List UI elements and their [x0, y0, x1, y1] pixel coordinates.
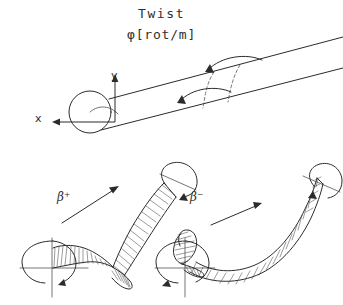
beta-plus-tip-rotation-arrowhead	[179, 193, 188, 201]
beta-plus-tip-rotation-arc	[161, 162, 197, 197]
cylinder-group	[52, 37, 343, 133]
beta-plus-base-rotation-arc	[22, 241, 53, 283]
beta-minus-group	[155, 163, 342, 297]
beta-plus-near-rulings	[54, 246, 107, 267]
x-axis-arrowhead	[52, 119, 60, 126]
diagram-canvas	[0, 0, 343, 305]
cylinder-lower-edge	[101, 68, 343, 130]
cylinder-section-dashed-right	[228, 65, 240, 102]
beta-plus-direction-arrow-shaft	[62, 189, 115, 223]
twist-arrow-upper-arc	[208, 56, 262, 70]
beta-plus-ribbon-near-bottom-edge	[53, 262, 114, 268]
x-axis-line	[56, 112, 115, 122]
beta-minus-near-lobe-outer	[179, 230, 197, 264]
beta-minus-ribbon-upper-edge	[196, 178, 317, 271]
twist-diagram-figure: Twist φ[rot/m] y x β⁺ β⁻	[0, 0, 343, 305]
beta-minus-direction-arrowhead	[253, 202, 262, 209]
y-axis-arrowhead	[112, 74, 119, 82]
beta-plus-pinch-lobe	[112, 268, 132, 289]
beta-plus-group	[20, 162, 197, 297]
beta-plus-far-rulings	[114, 185, 175, 275]
root-twist-arc	[90, 107, 118, 114]
beta-minus-direction-arrow-shaft	[211, 205, 258, 225]
beta-plus-base-rotation-arrowhead	[58, 279, 66, 286]
beta-minus-base-rotation-arc	[156, 241, 186, 283]
beta-minus-ribbon-lower-edge	[190, 184, 323, 281]
